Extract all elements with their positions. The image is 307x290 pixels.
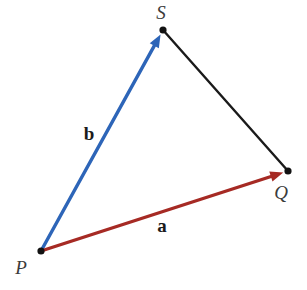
- segment-SQ-line: [163, 30, 288, 171]
- point-dot-P: [37, 247, 44, 254]
- point-label-P: P: [14, 257, 27, 278]
- point-label-Q: Q: [274, 182, 288, 203]
- vector-diagram-figure: baPSQ: [0, 0, 307, 290]
- vector-a-label: a: [157, 215, 167, 236]
- point-dot-Q: [284, 167, 291, 174]
- point-label-S: S: [156, 2, 166, 23]
- vector-b-label: b: [84, 123, 95, 144]
- point-dot-S: [159, 26, 166, 33]
- vector-diagram: baPSQ: [0, 0, 307, 290]
